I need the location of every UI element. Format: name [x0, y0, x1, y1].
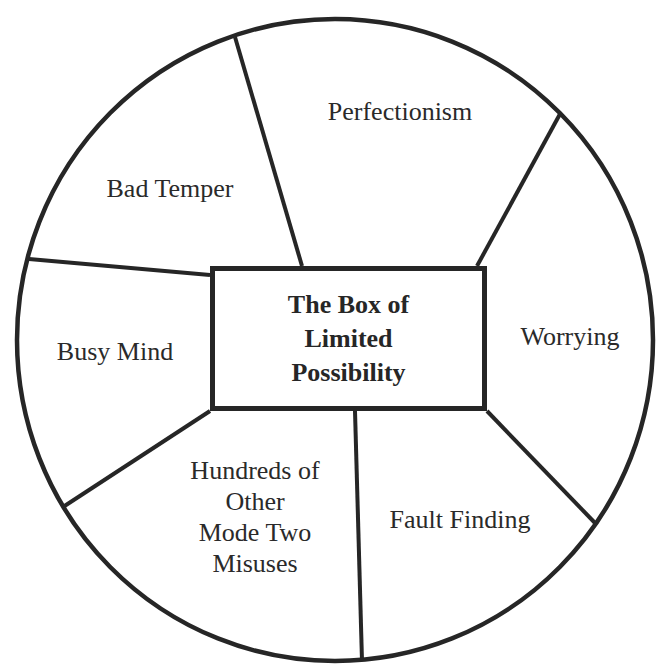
segment-label-perfectionism: Perfectionism — [305, 97, 495, 127]
segment-label-fault-finding: Fault Finding — [370, 505, 550, 535]
segment-text-busy-mind: Busy Mind — [57, 337, 173, 366]
segment-text-hundreds-line-2: Other — [170, 486, 340, 517]
segment-text-hundreds-line-1: Hundreds of — [170, 455, 340, 486]
segment-text-worrying: Worrying — [521, 322, 620, 351]
segment-text-hundreds-line-3: Mode Two — [170, 517, 340, 548]
segment-label-hundreds-of-other-misuses: Hundreds of Other Mode Two Misuses — [170, 455, 340, 579]
segment-text-fault-finding: Fault Finding — [390, 505, 531, 534]
center-box-line-2: Limited — [304, 322, 392, 356]
segment-text-bad-temper: Bad Temper — [107, 174, 234, 203]
segment-text-hundreds-line-4: Misuses — [170, 548, 340, 579]
center-box-line-3: Possibility — [291, 356, 405, 390]
center-box-limited-possibility: The Box of Limited Possibility — [210, 266, 487, 411]
segment-label-busy-mind: Busy Mind — [35, 337, 195, 367]
segment-text-perfectionism: Perfectionism — [328, 97, 472, 126]
center-box-line-1: The Box of — [288, 288, 409, 322]
segment-label-worrying: Worrying — [505, 322, 635, 352]
segment-label-bad-temper: Bad Temper — [85, 174, 255, 204]
